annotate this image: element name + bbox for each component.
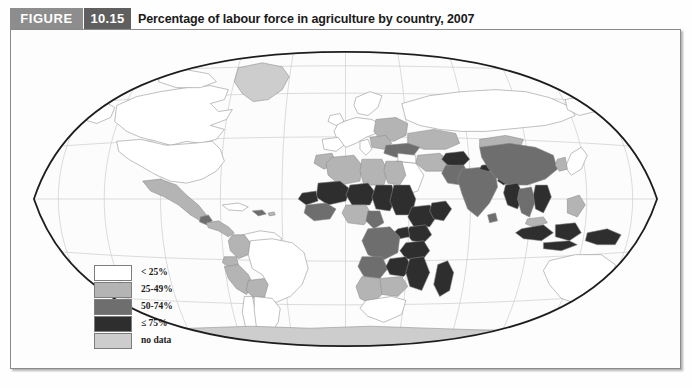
legend-label-ge75: ≤ 75% xyxy=(141,319,168,329)
country-sri-lanka xyxy=(488,213,498,223)
legend-label-50-74: 50-74% xyxy=(141,302,173,312)
country-tasmania xyxy=(589,306,601,316)
legend-label-lt25: < 25% xyxy=(141,268,168,278)
figure-root: FIGURE 10.15 Percentage of labour force … xyxy=(0,0,692,388)
legend-item-ge75: ≤ 75% xyxy=(94,315,214,332)
legend-swatch-ge75 xyxy=(94,316,132,332)
legend-swatch-25-49 xyxy=(94,282,132,298)
legend-item-50-74: 50-74% xyxy=(94,298,214,315)
map-panel: < 25% 25-49% 50-74% ≤ 75% no data xyxy=(10,29,681,369)
map-legend: < 25% 25-49% 50-74% ≤ 75% no data xyxy=(94,264,214,349)
country-puerto-rico xyxy=(268,212,275,216)
legend-item-lt25: < 25% xyxy=(94,264,214,281)
figure-title: Percentage of labour force in agricultur… xyxy=(138,8,474,29)
legend-label-25-49: 25-49% xyxy=(141,285,173,295)
figure-badge: FIGURE 10.15 xyxy=(10,8,131,29)
legend-swatch-lt25 xyxy=(94,265,132,281)
legend-label-nodata: no data xyxy=(141,336,171,346)
legend-item-nodata: no data xyxy=(94,332,214,349)
country-new-zealand xyxy=(633,294,649,316)
legend-item-25-49: 25-49% xyxy=(94,281,214,298)
figure-badge-number: 10.15 xyxy=(83,8,131,29)
legend-swatch-50-74 xyxy=(94,299,132,315)
legend-swatch-nodata xyxy=(94,333,132,349)
country-libya xyxy=(360,159,388,185)
figure-badge-word: FIGURE xyxy=(10,8,83,29)
